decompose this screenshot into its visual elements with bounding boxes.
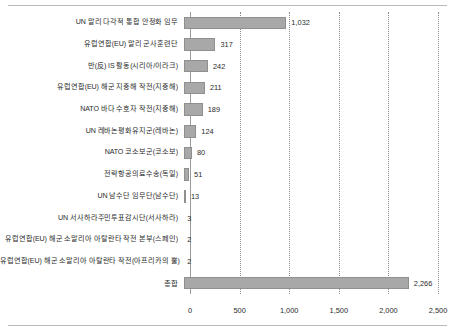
bar (184, 168, 189, 181)
bar-value-label: 2,266 (414, 279, 433, 288)
bar-row: UN 서사하라주민투표감시단(서사하라)3 (0, 207, 455, 229)
bar (184, 60, 208, 73)
bar-track: 2 (184, 251, 455, 273)
bar-track: 1,032 (184, 12, 455, 34)
bar (184, 38, 215, 51)
bar-row: 유럽연합(EU) 해군 소말리아 아탈란타 작전(아프리카의 뿔)2 (0, 251, 455, 273)
bar-category-label: NATO 바다 수호자 작전(지중해) (0, 105, 184, 114)
bar-category-label: UN 서사하라주민투표감시단(서사하라) (0, 214, 184, 223)
x-axis-tick-label: 0 (188, 306, 192, 315)
bar-track: 189 (184, 99, 455, 121)
bar-row: 유럽연합(EU) 말리 군사훈련단317 (0, 34, 455, 56)
bar-value-label: 13 (191, 192, 199, 201)
bar-category-label: UN 남수단 임무단(남수단) (0, 192, 184, 201)
bar-row: 유럽연합(EU) 해군 소말리아 아탈란타 작전 본부(스페인)2 (0, 229, 455, 251)
bar-value-label: 80 (197, 148, 205, 157)
bar (184, 277, 409, 290)
x-axis-tick-label: 500 (233, 306, 245, 315)
bar-track: 2,266 (184, 272, 455, 294)
bar-row: NATO 바다 수호자 작전(지중해)189 (0, 99, 455, 121)
x-axis-tick-label: 2,000 (379, 306, 398, 315)
bar-value-label: 51 (194, 170, 202, 179)
bar-value-label: 242 (213, 62, 225, 71)
bar-category-label: UN 말리 다각적 통합 안정화 임무 (0, 18, 184, 27)
x-axis-tick-label: 1,000 (280, 306, 299, 315)
bar (184, 103, 203, 116)
bar-row: UN 레바논평화유지군(레바논)124 (0, 120, 455, 142)
bar-value-label: 211 (210, 83, 222, 92)
top-divider (8, 5, 447, 6)
bar-track: 317 (184, 34, 455, 56)
bar-track: 124 (184, 120, 455, 142)
bar-row: 전략항공의료수송(독일)51 (0, 164, 455, 186)
bar-track: 2 (184, 229, 455, 251)
bar-rows: UN 말리 다각적 통합 안정화 임무1,032유럽연합(EU) 말리 군사훈련… (0, 12, 455, 294)
bar-category-label: 유럽연합(EU) 해군 소말리아 아탈란타 작전(아프리카의 뿔) (0, 257, 184, 266)
bar-row: 반(反) IS 활동(시리아/이라크)242 (0, 55, 455, 77)
bar-category-label: 유럽연합(EU) 해군 소말리아 아탈란타 작전 본부(스페인) (0, 235, 184, 244)
bar-value-label: 3 (187, 214, 191, 223)
bar-value-label: 1,032 (291, 18, 310, 27)
bar-category-label: 반(反) IS 활동(시리아/이라크) (0, 62, 184, 71)
bar (184, 190, 186, 203)
bar (184, 147, 192, 160)
bar-category-label: 유럽연합(EU) 해군 지중해 작전(지중해) (0, 83, 184, 92)
bar-value-label: 317 (220, 40, 232, 49)
bar-value-label: 124 (201, 127, 213, 136)
bar-chart: UN 말리 다각적 통합 안정화 임무1,032유럽연합(EU) 말리 군사훈련… (0, 12, 455, 312)
bar (184, 17, 286, 30)
bar-value-label: 2 (187, 235, 191, 244)
bar-category-label: 총합 (0, 279, 184, 288)
bar-category-label: UN 레바논평화유지군(레바논) (0, 127, 184, 136)
bar (184, 82, 205, 95)
bar-row: UN 남수단 임무단(남수단)13 (0, 186, 455, 208)
bar-row: UN 말리 다각적 통합 안정화 임무1,032 (0, 12, 455, 34)
x-axis: 05001,0001,5002,0002,500 (190, 306, 438, 320)
bar-row-total: 총합2,266 (0, 272, 455, 294)
bar-track: 13 (184, 186, 455, 208)
chart-figure: UN 말리 다각적 통합 안정화 임무1,032유럽연합(EU) 말리 군사훈련… (0, 0, 455, 335)
x-axis-tick-label: 2,500 (429, 306, 448, 315)
bottom-divider (8, 325, 447, 326)
bar-track: 80 (184, 142, 455, 164)
bar-track: 211 (184, 77, 455, 99)
bar-category-label: NATO 코소보군(코소보) (0, 148, 184, 157)
bar-category-label: 유럽연합(EU) 말리 군사훈련단 (0, 40, 184, 49)
bar-value-label: 2 (187, 257, 191, 266)
bar-row: 유럽연합(EU) 해군 지중해 작전(지중해)211 (0, 77, 455, 99)
bar-track: 51 (184, 164, 455, 186)
bar-row: NATO 코소보군(코소보)80 (0, 142, 455, 164)
x-axis-tick-label: 1,500 (330, 306, 349, 315)
bar-track: 3 (184, 207, 455, 229)
bar (184, 125, 196, 138)
bar-value-label: 189 (208, 105, 220, 114)
bar-category-label: 전략항공의료수송(독일) (0, 170, 184, 179)
bar-track: 242 (184, 55, 455, 77)
